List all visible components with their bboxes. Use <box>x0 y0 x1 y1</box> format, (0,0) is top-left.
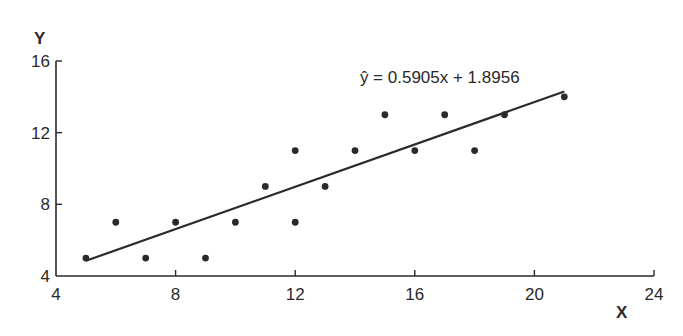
data-point <box>322 183 329 190</box>
x-tick-label: 16 <box>405 285 424 304</box>
data-point <box>561 93 568 100</box>
axes <box>56 61 654 276</box>
y-tick-label: 4 <box>41 267 50 286</box>
y-axis-label: Y <box>34 29 46 48</box>
x-tick-label: 24 <box>645 285 664 304</box>
tick-labels: 4812164812162024 <box>31 52 663 304</box>
data-point <box>471 147 478 154</box>
data-point <box>83 255 90 262</box>
data-point <box>382 111 389 118</box>
data-point <box>352 147 359 154</box>
x-tick-label: 12 <box>286 285 305 304</box>
regression-equation: ŷ = 0.5905x + 1.8956 <box>360 68 520 87</box>
x-tick-label: 20 <box>525 285 544 304</box>
data-point <box>262 183 269 190</box>
x-tick-label: 8 <box>171 285 180 304</box>
y-tick-label: 8 <box>41 195 50 214</box>
data-point <box>441 111 448 118</box>
data-point <box>232 219 239 226</box>
data-point <box>411 147 418 154</box>
y-tick-label: 12 <box>31 124 50 143</box>
data-point <box>292 147 299 154</box>
data-point <box>112 219 119 226</box>
data-point <box>202 255 209 262</box>
data-point <box>501 111 508 118</box>
data-point <box>292 219 299 226</box>
y-tick-label: 16 <box>31 52 50 71</box>
regression-line-path <box>86 92 564 261</box>
x-axis-label: X <box>616 303 628 322</box>
x-tick-label: 4 <box>51 285 60 304</box>
chart-canvas: 4812164812162024 Y X ŷ = 0.5905x + 1.895… <box>0 0 683 336</box>
scatter-chart: 4812164812162024 Y X ŷ = 0.5905x + 1.895… <box>0 0 683 336</box>
data-point <box>142 255 149 262</box>
data-point <box>172 219 179 226</box>
regression-line <box>86 92 564 261</box>
